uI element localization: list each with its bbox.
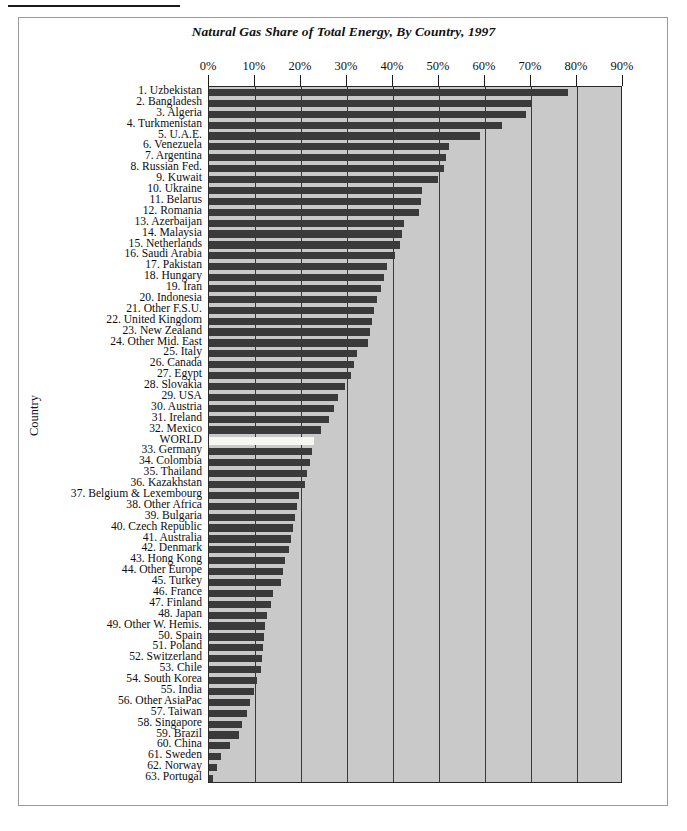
bar (209, 220, 404, 227)
bar (209, 339, 368, 346)
bar (209, 328, 370, 335)
bar (209, 426, 321, 433)
bar (209, 568, 283, 575)
bar (209, 361, 354, 368)
bar (209, 612, 267, 619)
bar (209, 622, 265, 629)
plot-area (208, 86, 622, 783)
x-axis-tick-mark (484, 75, 485, 86)
x-axis-tick-mark (438, 75, 439, 86)
bar (209, 514, 295, 521)
chart-title: Natural Gas Share of Total Energy, By Co… (0, 24, 687, 40)
category-label: 32. Mexico (149, 423, 202, 434)
x-axis-tick-label: 40% (381, 59, 404, 74)
bar (209, 296, 377, 303)
x-axis-tick-label: 20% (289, 59, 312, 74)
bar (209, 143, 449, 150)
x-axis-tick-label: 50% (427, 59, 450, 74)
bar (209, 557, 285, 564)
bar (209, 274, 384, 281)
bar (209, 699, 250, 706)
bar (209, 132, 480, 139)
bar (209, 535, 291, 542)
bar (209, 470, 307, 477)
bar (209, 437, 314, 444)
bar (209, 383, 345, 390)
bar (209, 633, 264, 640)
category-label: 63. Portugal (145, 771, 202, 782)
x-axis-tick-label: 10% (243, 59, 266, 74)
bar (209, 710, 247, 717)
bar (209, 492, 299, 499)
x-axis-tick-mark (622, 75, 623, 86)
category-label: 14. Malaysia (142, 227, 202, 238)
bar (209, 459, 310, 466)
bar (209, 209, 419, 216)
x-axis-tick-mark (392, 75, 393, 86)
bar (209, 764, 217, 771)
x-axis-tick-label: 30% (335, 59, 358, 74)
bar (209, 241, 400, 248)
bar (209, 394, 338, 401)
bar (209, 721, 242, 728)
bar (209, 252, 395, 259)
x-axis-tick-label: 80% (565, 59, 588, 74)
bar (209, 524, 293, 531)
bar (209, 372, 351, 379)
x-axis-tick-mark (576, 75, 577, 86)
x-axis-tick-label: 90% (611, 59, 634, 74)
bar (209, 579, 281, 586)
bar (209, 655, 262, 662)
bar (209, 666, 261, 673)
x-axis-tick-mark (530, 75, 531, 86)
bar (209, 307, 374, 314)
bar (209, 405, 334, 412)
bar (209, 448, 312, 455)
bar (209, 165, 444, 172)
bar (209, 318, 372, 325)
category-label: 40. Czech Republic (111, 521, 202, 532)
bar (209, 198, 421, 205)
bar (209, 503, 297, 510)
category-axis-labels: 1. Uzbekistan2. Bangladesh3. Algeria4. T… (0, 86, 205, 783)
bar (209, 285, 381, 292)
x-axis-tick-marks (0, 75, 687, 86)
bar (209, 753, 221, 760)
bar (209, 775, 213, 782)
bar (209, 590, 273, 597)
x-axis-tick-mark (254, 75, 255, 86)
x-axis-tick-mark (346, 75, 347, 86)
bar (209, 416, 329, 423)
figure-root: Natural Gas Share of Total Energy, By Co… (0, 0, 687, 831)
bar (209, 154, 446, 161)
category-label: 23. New Zealand (122, 325, 202, 336)
bar (209, 644, 263, 651)
x-axis-tick-label: 0% (200, 59, 217, 74)
bar (209, 187, 422, 194)
bars-layer (209, 87, 621, 782)
x-axis-tick-label: 70% (519, 59, 542, 74)
bar (209, 122, 502, 129)
bar (209, 263, 387, 270)
top-rule (8, 5, 180, 7)
bar (209, 176, 438, 183)
bar (209, 100, 532, 107)
bar (209, 688, 254, 695)
bar (209, 677, 257, 684)
x-axis-tick-labels: 0%10%20%30%40%50%60%70%80%90% (0, 59, 687, 75)
bar (209, 481, 305, 488)
bar (209, 111, 526, 118)
bar (209, 230, 402, 237)
bar (209, 742, 230, 749)
bar (209, 731, 239, 738)
bar (209, 89, 568, 96)
bar (209, 350, 357, 357)
bar (209, 601, 271, 608)
x-axis-tick-mark (300, 75, 301, 86)
bar (209, 546, 289, 553)
x-axis-tick-label: 60% (473, 59, 496, 74)
x-axis-tick-mark (208, 75, 209, 86)
